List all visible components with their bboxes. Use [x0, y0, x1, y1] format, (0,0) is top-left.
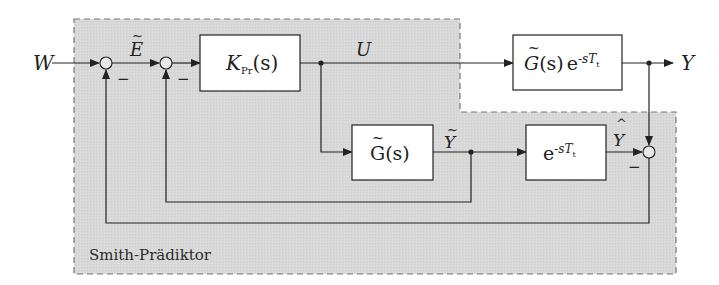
controller-label: KPr(s) [225, 51, 278, 76]
summing-junction-2 [160, 57, 172, 69]
signal-y-hat-label: Y [613, 130, 626, 150]
smith-predictor-block-diagram: − − − KPr(s) ~ G(s)e-sTt ~ G(s) e-sTt W … [0, 0, 719, 285]
region-caption: Smith-Prädiktor [89, 246, 212, 264]
minus-sign-2: − [177, 70, 190, 88]
signal-y-label: Y [681, 51, 696, 75]
signal-u-label: U [356, 39, 372, 60]
junction-dot-output [646, 60, 651, 65]
model-label: G(s) [370, 142, 410, 164]
controller-block [200, 35, 300, 91]
minus-sign-3: − [628, 158, 641, 176]
signal-w-label: W [33, 51, 55, 75]
minus-sign-1: − [117, 70, 130, 88]
signal-e-label: E [129, 39, 143, 60]
junction-dot-model-output [468, 149, 473, 154]
signal-y-hat-accent: ^ [616, 116, 627, 131]
junction-dot-control [318, 60, 323, 65]
signal-y-tilde-label: Y [444, 132, 457, 152]
summing-junction-3 [643, 146, 655, 158]
summing-junction-1 [100, 57, 112, 69]
